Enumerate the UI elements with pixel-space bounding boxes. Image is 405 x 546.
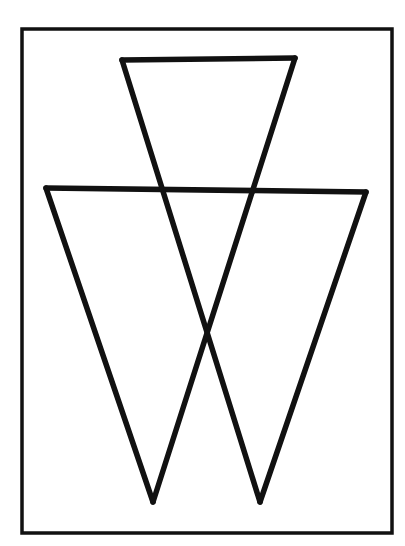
figure-canvas bbox=[0, 0, 405, 546]
upper-small-inverted-triangle-top-edge bbox=[122, 58, 295, 60]
background bbox=[0, 0, 405, 546]
geometric-triangles-figure bbox=[0, 0, 405, 546]
